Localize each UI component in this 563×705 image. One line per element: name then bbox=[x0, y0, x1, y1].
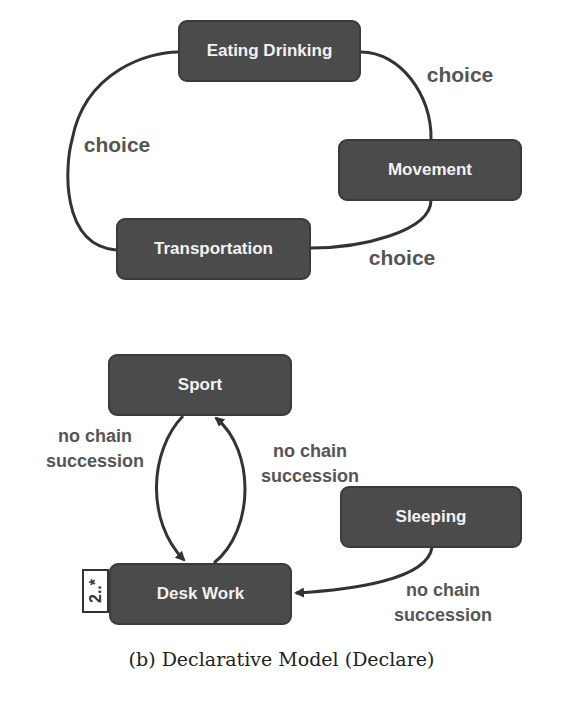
edge-label-choice-bottom: choice bbox=[360, 245, 444, 270]
node-sport: Sport bbox=[108, 354, 292, 416]
node-label: Transportation bbox=[154, 239, 273, 259]
node-label: Movement bbox=[388, 160, 472, 180]
edge-label-deskwork-to-sport: no chain succession bbox=[250, 439, 370, 489]
label-line2: succession bbox=[383, 603, 503, 628]
edge-sport-to-deskwork bbox=[156, 416, 184, 560]
node-eating-drinking: Eating Drinking bbox=[178, 20, 361, 82]
node-desk-work: Desk Work bbox=[109, 563, 292, 625]
node-label: Eating Drinking bbox=[207, 41, 333, 61]
node-label: Sport bbox=[178, 375, 222, 395]
node-sleeping: Sleeping bbox=[340, 486, 522, 548]
node-movement: Movement bbox=[338, 139, 522, 201]
node-transportation: Transportation bbox=[116, 218, 311, 280]
edge-label-sport-to-deskwork: no chain succession bbox=[35, 424, 155, 474]
node-label: Sleeping bbox=[396, 507, 467, 527]
edge-movement-to-transportation bbox=[311, 200, 431, 248]
edge-label-choice-top-right: choice bbox=[418, 62, 502, 87]
label-line2: succession bbox=[35, 449, 155, 474]
label-line2: succession bbox=[250, 464, 370, 489]
cardinality-text: 2..* bbox=[87, 579, 105, 603]
cardinality-badge: 2..* bbox=[82, 569, 109, 613]
edge-deskwork-to-sport bbox=[214, 418, 245, 563]
label-line1: no chain bbox=[383, 578, 503, 603]
node-label: Desk Work bbox=[157, 584, 245, 604]
figure-caption: (b) Declarative Model (Declare) bbox=[0, 648, 563, 670]
edge-label-choice-left: choice bbox=[75, 132, 159, 157]
declare-diagram: Eating Drinking Movement Transportation … bbox=[0, 0, 563, 705]
label-line1: no chain bbox=[250, 439, 370, 464]
label-line1: no chain bbox=[35, 424, 155, 449]
edge-label-sleeping-to-deskwork: no chain succession bbox=[383, 578, 503, 628]
